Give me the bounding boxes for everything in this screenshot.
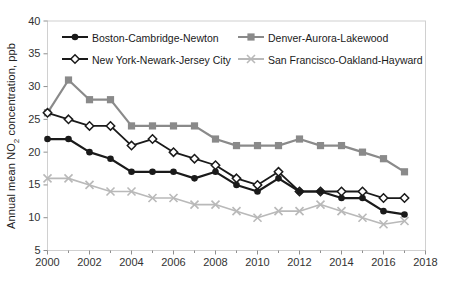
svg-text:15: 15 [28, 178, 40, 190]
legend-label-new-york: New York-Newark-Jersey City [92, 54, 231, 66]
svg-text:2018: 2018 [413, 256, 437, 268]
legend-item-denver: Denver-Aurora-Lakewood [238, 31, 388, 44]
y-axis-label: Annual mean NO2 concentration, ppb [5, 43, 20, 229]
svg-text:25: 25 [28, 113, 40, 125]
legend-item-san-francisco: San Francisco-Oakland-Hayward [238, 53, 423, 66]
svg-text:2012: 2012 [287, 256, 311, 268]
svg-text:30: 30 [28, 80, 40, 92]
svg-text:5: 5 [34, 244, 40, 256]
legend-label-san-francisco: San Francisco-Oakland-Hayward [268, 54, 423, 66]
legend-marker-diamond-icon [62, 54, 88, 66]
svg-text:40: 40 [28, 15, 40, 27]
svg-text:2006: 2006 [161, 256, 185, 268]
svg-text:35: 35 [28, 47, 40, 59]
legend-marker-square-icon [238, 32, 264, 44]
svg-text:2000: 2000 [35, 256, 59, 268]
svg-text:2014: 2014 [329, 256, 353, 268]
legend-label-boston: Boston-Cambridge-Newton [92, 32, 219, 44]
legend-marker-circle-icon [62, 32, 88, 44]
svg-text:20: 20 [28, 146, 40, 158]
svg-text:2010: 2010 [245, 256, 269, 268]
no2-trend-chart: 5101520253035402000200220042006200820102… [0, 0, 450, 283]
legend-item-boston: Boston-Cambridge-Newton [62, 31, 219, 44]
y-axis-label-sub: 2 [12, 139, 21, 144]
svg-text:10: 10 [28, 211, 40, 223]
legend-label-denver: Denver-Aurora-Lakewood [268, 32, 388, 44]
legend-marker-x-icon [238, 54, 264, 66]
svg-text:2004: 2004 [119, 256, 143, 268]
y-axis-label-post: concentration, ppb [5, 43, 17, 138]
svg-text:2002: 2002 [77, 256, 101, 268]
legend-item-new-york: New York-Newark-Jersey City [62, 53, 231, 66]
svg-text:2008: 2008 [203, 256, 227, 268]
svg-text:2016: 2016 [371, 256, 395, 268]
y-axis-label-pre: Annual mean NO [5, 143, 17, 229]
